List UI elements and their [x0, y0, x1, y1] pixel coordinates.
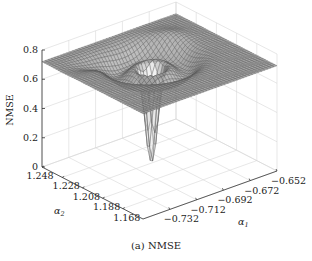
alpha1-tick-label: −0.652	[271, 175, 306, 186]
figure-caption: (a) NMSE	[0, 240, 312, 251]
alpha2-tick-label: 1.188	[93, 201, 120, 212]
alpha2-tick-label: 1.228	[53, 180, 80, 191]
alpha1-tick-label: −0.732	[164, 213, 199, 224]
z-axis-label: NMSE	[4, 94, 15, 126]
z-tick-label: 0.6	[23, 73, 38, 84]
alpha1-tick-label: −0.692	[217, 194, 252, 205]
alpha2-tick-label: 1.248	[26, 170, 53, 181]
alpha1-tick-label: −0.672	[244, 185, 279, 196]
alpha2-tick-label: 1.168	[113, 212, 140, 223]
alpha1-tick-label: −0.712	[191, 204, 226, 215]
nmse-surface-chart: 00.20.40.60.8 1.2481.2281.2081.1881.168 …	[0, 0, 312, 261]
alpha2-tick-label: 1.208	[73, 191, 100, 202]
alpha2-axis-ticks: 1.2481.2281.2081.1881.168	[26, 166, 140, 223]
alpha1-axis-label: α1	[238, 216, 249, 229]
alpha2-axis-label: α2	[54, 205, 65, 218]
z-tick-label: 0.2	[23, 132, 38, 143]
alpha1-axis-ticks: −0.732−0.712−0.692−0.672−0.652	[164, 169, 306, 224]
z-tick-label: 0.4	[23, 103, 38, 114]
z-tick-label: 0.8	[23, 44, 38, 55]
